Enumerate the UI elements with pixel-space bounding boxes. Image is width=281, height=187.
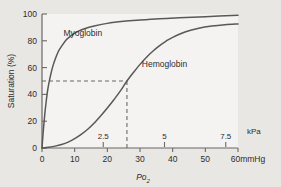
y-tick-label-100: 100 <box>23 9 37 19</box>
kpa-unit-label: kPa <box>247 127 261 136</box>
kpa-tick-label-7.5: 7.5 <box>220 132 232 141</box>
y-axis-title: Saturation (%) <box>6 54 16 108</box>
chart-canvas: 020406080100 01020304050 2.557.5 Myoglob… <box>0 0 281 187</box>
y-tick-label-20: 20 <box>28 116 38 126</box>
x-tick-label-50: 50 <box>201 154 211 164</box>
mmhg-unit-label: 60mmHg <box>231 154 266 164</box>
y-tick-label-0: 0 <box>32 143 37 153</box>
x-tick-label-0: 0 <box>40 154 45 164</box>
oxygen-dissociation-curve-figure: 020406080100 01020304050 2.557.5 Myoglob… <box>0 0 281 187</box>
x-tick-label-40: 40 <box>168 154 178 164</box>
x-tick-label-10: 10 <box>70 154 80 164</box>
myoglobin-curve-label: Myoglobin <box>63 28 102 38</box>
x-tick-label-30: 30 <box>135 154 145 164</box>
x-tick-label-20: 20 <box>103 154 113 164</box>
y-tick-label-80: 80 <box>28 36 38 46</box>
kpa-tick-label-5: 5 <box>162 132 167 141</box>
y-tick-label-40: 40 <box>28 89 38 99</box>
y-tick-label-60: 60 <box>28 63 38 73</box>
kpa-tick-label-2.5: 2.5 <box>98 132 110 141</box>
hemoglobin-curve-label: Hemoglobin <box>142 59 188 69</box>
